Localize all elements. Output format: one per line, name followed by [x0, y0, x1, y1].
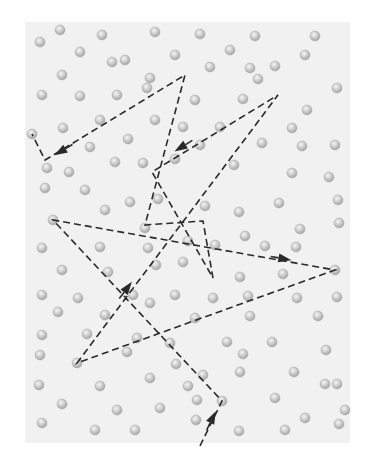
molecule-sphere	[234, 426, 244, 436]
random-walk-diagram	[0, 0, 367, 456]
molecule-sphere	[85, 142, 95, 152]
molecule-sphere	[287, 168, 297, 178]
molecule-sphere	[73, 293, 83, 303]
arrowhead-icon	[206, 411, 216, 425]
molecule-sphere	[155, 403, 165, 413]
molecule-sphere	[90, 425, 100, 435]
molecule-sphere	[97, 30, 107, 40]
molecule-sphere	[250, 31, 260, 41]
molecule-sphere	[287, 123, 297, 133]
molecule-sphere	[153, 194, 163, 204]
arrow-shaft	[271, 256, 279, 257]
molecule-sphere	[95, 115, 105, 125]
molecule-sphere	[112, 405, 122, 415]
molecule-sphere	[205, 62, 215, 72]
molecule-sphere	[55, 25, 65, 35]
molecule-sphere	[130, 425, 140, 435]
molecule-sphere	[170, 50, 180, 60]
molecule-sphere	[198, 370, 208, 380]
molecule-sphere	[238, 94, 248, 104]
molecule-sphere	[274, 198, 284, 208]
molecule-sphere	[100, 310, 110, 320]
molecule-sphere	[300, 50, 310, 60]
molecule-sphere	[234, 207, 244, 217]
molecule-sphere	[178, 122, 188, 132]
molecule-sphere	[165, 338, 175, 348]
molecule-sphere	[235, 272, 245, 282]
molecule-sphere	[128, 290, 138, 300]
molecule-sphere	[120, 55, 130, 65]
molecule-sphere	[208, 293, 218, 303]
molecule-sphere	[122, 347, 132, 357]
molecule-sphere	[145, 373, 155, 383]
molecule-sphere	[190, 95, 200, 105]
molecule-sphere	[257, 138, 267, 148]
molecule-sphere	[332, 83, 342, 93]
molecule-sphere	[40, 183, 50, 193]
molecule-sphere	[297, 141, 307, 151]
molecule-field	[27, 25, 350, 436]
molecule-sphere	[340, 405, 350, 415]
molecule-sphere	[300, 413, 310, 423]
molecule-sphere	[75, 47, 85, 57]
molecule-sphere	[302, 105, 312, 115]
molecule-sphere	[125, 197, 135, 207]
molecule-sphere	[145, 73, 155, 83]
arrowhead-icon	[174, 141, 187, 152]
molecule-sphere	[191, 415, 201, 425]
molecule-sphere	[138, 158, 148, 168]
molecule-sphere	[37, 330, 47, 340]
molecule-sphere	[34, 380, 44, 390]
molecule-sphere	[292, 293, 302, 303]
molecule-sphere	[295, 224, 305, 234]
molecule-sphere	[53, 307, 63, 317]
molecule-sphere	[192, 395, 202, 405]
molecule-sphere	[334, 419, 344, 429]
molecule-sphere	[37, 243, 47, 253]
molecule-sphere	[37, 290, 47, 300]
molecule-sphere	[238, 349, 248, 359]
molecule-sphere	[35, 350, 45, 360]
molecule-sphere	[150, 115, 160, 125]
molecule-sphere	[95, 242, 105, 252]
molecule-sphere	[332, 292, 342, 302]
molecule-sphere	[57, 265, 67, 275]
molecule-sphere	[37, 90, 47, 100]
arrowhead-icon	[54, 145, 67, 156]
molecule-sphere	[80, 185, 90, 195]
molecule-sphere	[37, 418, 47, 428]
molecule-sphere	[270, 393, 280, 403]
molecule-sphere	[267, 337, 277, 347]
molecule-sphere	[245, 63, 255, 73]
molecule-sphere	[260, 241, 270, 251]
arrow-shaft	[186, 140, 193, 144]
molecule-sphere	[170, 290, 180, 300]
molecule-sphere	[333, 195, 343, 205]
molecule-sphere	[215, 122, 225, 132]
molecule-sphere	[64, 167, 74, 177]
molecule-sphere	[183, 381, 193, 391]
molecule-sphere	[58, 123, 68, 133]
molecule-sphere	[95, 381, 105, 391]
molecule-sphere	[75, 91, 85, 101]
arrow-shaft	[207, 423, 211, 430]
molecule-sphere	[313, 311, 323, 321]
molecule-sphere	[142, 83, 152, 93]
molecule-sphere	[222, 337, 232, 347]
molecule-sphere	[270, 61, 280, 71]
molecule-sphere	[35, 37, 45, 47]
molecule-sphere	[320, 379, 330, 389]
molecule-sphere	[82, 329, 92, 339]
molecule-sphere	[143, 243, 153, 253]
arrowhead-icon	[278, 253, 292, 262]
molecule-sphere	[57, 70, 67, 80]
molecule-sphere	[100, 205, 110, 215]
molecule-sphere	[291, 242, 301, 252]
molecule-sphere	[289, 367, 299, 377]
molecule-sphere	[235, 367, 245, 377]
molecule-sphere	[278, 269, 288, 279]
molecule-sphere	[240, 231, 250, 241]
molecule-sphere	[280, 425, 290, 435]
molecule-sphere	[229, 160, 239, 170]
molecule-sphere	[112, 90, 122, 100]
